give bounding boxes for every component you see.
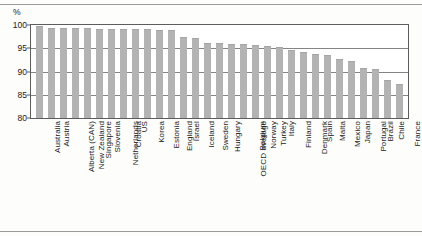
x-label-slot: Japan (347, 121, 359, 221)
x-axis-category-label: Finland (306, 94, 314, 121)
page-rule-top (0, 4, 422, 5)
x-label-slot: Austria (44, 121, 56, 221)
x-label-slot: Spain (310, 121, 322, 221)
x-axis-category-label: Alberta (CAN) (87, 70, 95, 121)
x-axis-category-label: Malta (339, 101, 347, 121)
y-axis-tick-label: 90 (5, 67, 27, 76)
y-axis-tick-labels: 10095908580 (0, 24, 27, 119)
x-axis-category-label: Israel (193, 101, 201, 121)
x-axis-category-label: Belgium (258, 91, 266, 121)
page-rule-bottom (0, 231, 422, 232)
x-label-slot: Singapore (80, 121, 92, 221)
x-label-slot: Belgium (238, 121, 250, 221)
x-label-slot: New Zealand (68, 121, 80, 221)
x-label-slot: Denmark (298, 121, 310, 221)
x-label-slot: Slovenia (92, 121, 104, 221)
x-axis-category-label: Spain (327, 100, 335, 121)
x-label-slot: Alberta (CAN) (56, 121, 68, 221)
chart-figure: % 10095908580 AustraliaAustriaAlberta (C… (0, 0, 422, 236)
x-axis-category-label: Singapore (105, 84, 113, 121)
x-axis-category-label: Norway (270, 93, 278, 121)
x-label-slot: Australia (32, 121, 44, 221)
x-axis-category-labels: AustraliaAustriaAlberta (CAN)New Zealand… (30, 121, 409, 221)
x-label-slot: Norway (250, 121, 262, 221)
x-label-slot: Brazil (371, 121, 383, 221)
x-axis-category-label: Austria (62, 95, 70, 121)
x-label-slot: Finland (286, 121, 298, 221)
x-axis-category-label: Hungary (235, 90, 243, 121)
x-axis-category-label: US (140, 110, 148, 121)
x-label-slot: US (129, 121, 141, 221)
x-label-slot: Estonia (153, 121, 165, 221)
x-axis-category-label: Italy (288, 106, 296, 121)
x-label-slot: OECD average (226, 121, 238, 221)
y-axis-tick-label: 85 (5, 91, 27, 100)
x-axis-category-label: Iceland (208, 95, 216, 122)
x-label-slot: France (395, 121, 407, 221)
x-axis-category-label: Brazil (387, 100, 395, 121)
x-label-slot: Croatia (116, 121, 128, 221)
x-axis-category-label: Japan (364, 99, 372, 121)
x-label-slot: Malta (323, 121, 335, 221)
x-label-slot: Chile (383, 121, 395, 221)
bar (144, 29, 152, 118)
y-axis-unit-label: % (13, 8, 21, 17)
bar (372, 69, 380, 118)
y-axis-tick-label: 95 (5, 44, 27, 53)
x-label-slot: Israel (177, 121, 189, 221)
x-label-slot: Netherlands (104, 121, 116, 221)
x-axis-category-label: Mexico (354, 95, 362, 121)
x-axis-category-label: Slovenia (114, 90, 122, 122)
x-label-slot: Mexico (335, 121, 347, 221)
x-label-slot: Sweden (201, 121, 213, 221)
bar-slot (70, 25, 82, 118)
x-axis-category-label: Sweden (222, 91, 230, 121)
x-label-slot: England (165, 121, 177, 221)
bar (36, 26, 44, 118)
y-axis-tick-label: 100 (5, 21, 27, 30)
x-axis-category-label: Korea (158, 99, 166, 121)
y-axis-tick-label: 80 (5, 114, 27, 123)
x-label-slot: Turkey (262, 121, 274, 221)
bar-slot (34, 25, 46, 118)
x-label-slot: Portugal (359, 121, 371, 221)
x-axis-category-label: Australia (54, 89, 62, 121)
bar (72, 28, 80, 118)
x-label-slot: Italy (274, 121, 286, 221)
x-label-slot: Korea (141, 121, 153, 221)
x-label-slot: Iceland (189, 121, 201, 221)
x-label-slot: Hungary (213, 121, 225, 221)
x-axis-category-label: France (414, 96, 422, 122)
bar-slot (142, 25, 154, 118)
x-axis-category-label: Chile (399, 102, 407, 121)
x-axis-category-label: Estonia (173, 94, 181, 121)
